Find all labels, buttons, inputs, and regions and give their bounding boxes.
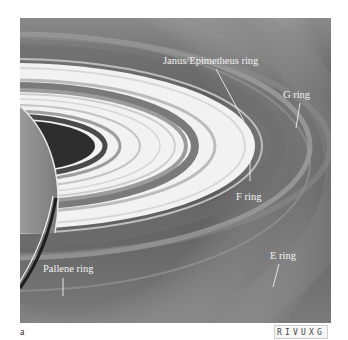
janus-epimetheus-ring-label: Janus/Epimetheus ring — [163, 56, 258, 67]
panel-letter: a — [20, 326, 24, 337]
saturn-rings-image: Janus/Epimetheus ring G ring F ring E ri… — [20, 18, 331, 323]
pallene-ring-label: Pallene ring — [43, 264, 93, 275]
g-ring-label: G ring — [283, 90, 310, 101]
wavelength-band-indicator: RIVUXG — [274, 325, 328, 339]
e-ring-label: E ring — [270, 251, 296, 262]
f-ring-label: F ring — [236, 192, 261, 203]
